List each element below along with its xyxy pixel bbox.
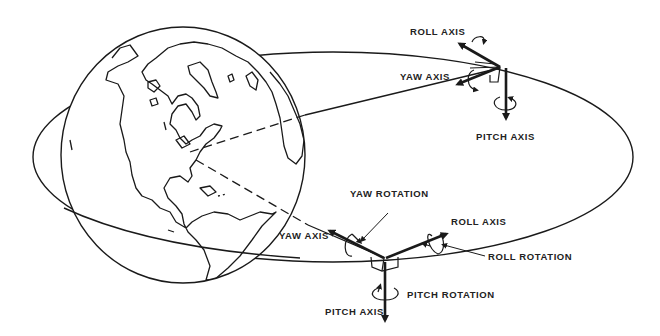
yaw-axis-arrow <box>330 231 384 258</box>
bottom-roll-rotation-label: ROLL ROTATION <box>488 251 572 262</box>
earth-globe <box>61 27 305 283</box>
bottom-roll-axis-label: ROLL AXIS <box>451 216 507 227</box>
roll-axis-arrow <box>386 234 446 258</box>
bottom-yaw-rotation-label: YAW ROTATION <box>350 188 429 199</box>
satellite-attitude-diagram: ROLL AXIS YAW AXIS PITCH AXIS YAW ROTATI… <box>0 0 660 336</box>
bottom-pitch-rotation-label: PITCH ROTATION <box>407 289 495 300</box>
satellite-top <box>458 37 516 118</box>
satellite-bottom <box>330 213 485 320</box>
top-yaw-axis-label: YAW AXIS <box>400 71 450 82</box>
bottom-pitch-axis-label: PITCH AXIS <box>325 306 384 317</box>
yaw-rotation-arc <box>345 234 352 256</box>
bottom-yaw-axis-label: YAW AXIS <box>279 230 329 241</box>
roll-rotation-arc <box>472 37 484 42</box>
top-pitch-axis-label: PITCH AXIS <box>476 131 535 142</box>
diagram-canvas <box>0 0 660 336</box>
yaw-rotation-leader <box>362 213 388 240</box>
top-roll-axis-label: ROLL AXIS <box>410 26 466 37</box>
